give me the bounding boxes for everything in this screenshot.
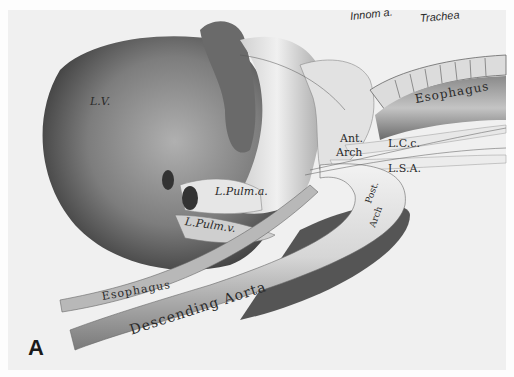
panel-letter: A	[28, 335, 44, 361]
vessel-lumen	[162, 170, 174, 190]
label-anterior-arch-line2: Arch	[336, 146, 362, 159]
label-anterior-arch-line1: Ant.	[340, 132, 363, 145]
anatomical-figure: Innom a. Trachea Esophagus L.V. Ant. Arc…	[0, 0, 514, 377]
label-left-subclavian-artery: L.S.A.	[388, 162, 421, 175]
label-left-pulmonary-artery: L.Pulm.a.	[215, 185, 268, 198]
label-left-common-carotid: L.C.c.	[388, 137, 420, 150]
label-left-ventricle: L.V.	[90, 95, 110, 108]
vessel-lumen	[182, 186, 198, 210]
